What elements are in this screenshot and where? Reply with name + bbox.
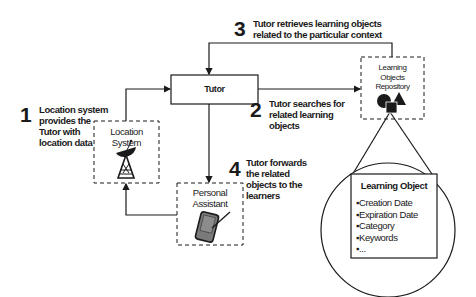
tutor-label: Tutor (171, 84, 258, 95)
step-3-text: Tutor retrieves learning objects related… (253, 18, 382, 40)
step-2-line: objects (269, 120, 345, 131)
pda-device-icon (195, 211, 230, 243)
repository-label-line3: Repository (361, 82, 424, 92)
repository-label-line2: Objects (361, 73, 424, 83)
learning-object-attributes: ▪Creation Date ▪Expiration Date ▪Categor… (356, 197, 418, 255)
attribute-item: ▪Expiration Date (356, 209, 418, 221)
shapes-icon (377, 92, 406, 113)
attribute-label: Category (359, 220, 394, 231)
step-3-number: 3 (234, 18, 245, 39)
step-1-text: Location system provides the Tutor with … (39, 104, 108, 148)
step-1-line: Tutor with (39, 126, 108, 137)
repository-label-line1: Learning (361, 63, 424, 73)
attribute-item: ▪Creation Date (356, 197, 418, 209)
attribute-label: Keywords (359, 232, 398, 243)
personal-assistant-label-line1: Personal (177, 188, 243, 199)
step-2-line: Tutor searches for (269, 98, 345, 109)
attribute-item: ▪Keywords (356, 232, 418, 244)
step-4-text: Tutor forwards the related objects to th… (246, 157, 307, 201)
personal-assistant-label: Personal Assistant (177, 188, 243, 209)
step-2-line: related learning (269, 109, 345, 120)
step-3-line: Tutor retrieves learning objects (253, 18, 382, 29)
attribute-item: ▪... (356, 243, 418, 255)
step-2-number: 2 (250, 99, 261, 120)
step-1-line: location data (39, 137, 108, 148)
step-4-line: Tutor forwards (246, 157, 307, 168)
attribute-item: ▪Category (356, 220, 418, 232)
step-4-line: learners (246, 190, 307, 201)
step-1-line: Location system (39, 104, 108, 115)
attribute-label: ... (359, 243, 366, 254)
attribute-label: Expiration Date (359, 209, 418, 220)
step-1-line: provides the (39, 115, 108, 126)
step-4-line: objects to the (246, 179, 307, 190)
step-2-text: Tutor searches for related learning obje… (269, 98, 345, 131)
step-4-number: 4 (229, 158, 240, 179)
arrow-pa-to-location (126, 184, 177, 215)
repository-label: Learning Objects Repository (361, 63, 424, 92)
personal-assistant-label-line2: Assistant (177, 199, 243, 210)
learning-object-title: Learning Object (351, 180, 437, 191)
step-4-line: the related (246, 168, 307, 179)
step-3-line: related to the particular context (253, 29, 382, 40)
step-1-number: 1 (20, 104, 31, 125)
attribute-label: Creation Date (359, 197, 412, 208)
arrow-location-data (126, 89, 170, 121)
